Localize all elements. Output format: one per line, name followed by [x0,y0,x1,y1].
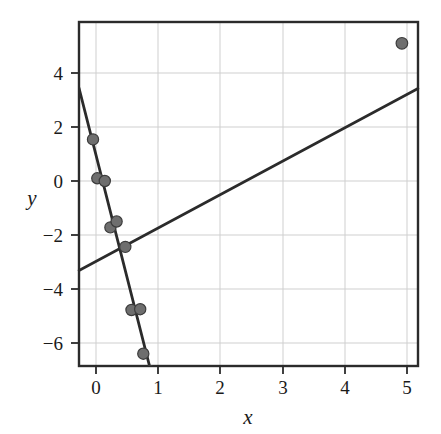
y-tick-labels: 4 2 0 −2 −4 −6 [43,63,64,354]
x-axis-label: x [242,405,253,429]
yticklabel: 4 [54,63,64,84]
yticklabel: −2 [43,225,63,246]
data-point [135,304,146,315]
plot-svg: 0 1 2 3 4 5 4 2 0 −2 −4 −6 x y [0,0,441,434]
xticklabel: 4 [340,377,350,398]
yticklabel: 2 [54,117,64,138]
data-point [87,134,98,145]
data-point [99,175,110,186]
data-point [138,348,149,359]
x-axis-ticks [96,366,407,374]
data-point [120,241,131,252]
yticklabel: 0 [54,171,64,192]
data-point-outlier [396,38,408,50]
data-point [145,366,156,377]
data-point [111,216,122,227]
xticklabel: 1 [153,377,163,398]
xticklabel: 0 [91,377,101,398]
yticklabel: −4 [43,279,64,300]
y-axis-label: y [25,186,37,210]
xticklabel: 5 [402,377,412,398]
xticklabel: 2 [215,377,225,398]
yticklabel: −6 [43,333,63,354]
xticklabel: 3 [278,377,288,398]
scatter-plot-figure: 0 1 2 3 4 5 4 2 0 −2 −4 −6 x y [0,0,441,434]
x-tick-labels: 0 1 2 3 4 5 [91,377,412,398]
